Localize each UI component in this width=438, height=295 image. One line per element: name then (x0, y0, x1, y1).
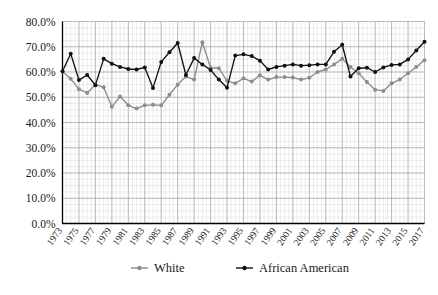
data-point (151, 86, 155, 90)
data-point (242, 76, 246, 80)
data-point (274, 65, 278, 69)
x-tick-label: 2005 (307, 225, 327, 247)
data-point (365, 66, 369, 70)
data-point (365, 80, 369, 84)
y-tick-label: 10.0% (26, 192, 56, 204)
grid-major-lines (63, 22, 425, 224)
data-point (283, 75, 287, 79)
data-point (118, 94, 122, 98)
x-axis-tick-labels: 1973197519771979198119831985198719891991… (44, 225, 426, 247)
data-point (242, 52, 246, 56)
x-tick-label: 1995 (225, 225, 245, 247)
data-point (406, 71, 410, 75)
data-point (390, 63, 394, 67)
data-point (126, 67, 130, 71)
data-point (102, 85, 106, 89)
x-tick-label: 1999 (258, 225, 278, 247)
x-tick-label: 1991 (192, 225, 212, 247)
data-point (340, 43, 344, 47)
data-point (77, 87, 81, 91)
line-chart: 0.0%10.0%20.0%30.0%40.0%50.0%60.0%70.0%8… (0, 0, 438, 295)
x-tick-label: 2003 (291, 225, 311, 247)
x-tick-label: 1983 (126, 225, 146, 247)
data-point (348, 65, 352, 69)
data-point (225, 86, 229, 90)
data-point (167, 93, 171, 97)
legend-label: African American (259, 261, 350, 275)
data-point (143, 65, 147, 69)
data-point (398, 78, 402, 82)
data-point (324, 67, 328, 71)
data-point (423, 40, 427, 44)
x-tick-label: 1979 (93, 225, 113, 247)
data-point (85, 91, 89, 95)
data-point (406, 57, 410, 61)
x-tick-label: 2013 (373, 225, 393, 247)
data-point (200, 40, 204, 44)
data-point (390, 81, 394, 85)
data-point (381, 89, 385, 93)
chart-container: 0.0%10.0%20.0%30.0%40.0%50.0%60.0%70.0%8… (0, 0, 438, 295)
data-point (143, 103, 147, 107)
data-point (167, 50, 171, 54)
y-tick-label: 50.0% (26, 91, 56, 103)
x-tick-label: 1975 (61, 225, 81, 247)
y-tick-label: 80.0% (26, 16, 56, 28)
data-point (159, 60, 163, 64)
data-point (110, 105, 114, 109)
y-tick-label: 30.0% (26, 142, 56, 154)
chart-legend: WhiteAfrican American (131, 261, 350, 275)
data-point (200, 62, 204, 66)
data-point (307, 76, 311, 80)
data-point (61, 69, 65, 73)
data-point (414, 65, 418, 69)
data-point (250, 80, 254, 84)
data-point (135, 107, 139, 111)
data-point (299, 78, 303, 82)
data-point (217, 66, 221, 70)
data-point (151, 103, 155, 107)
data-point (184, 73, 188, 77)
data-point (373, 70, 377, 74)
data-point (258, 73, 262, 77)
data-point (414, 49, 418, 53)
data-point (398, 62, 402, 66)
data-point (283, 64, 287, 68)
data-point (77, 78, 81, 82)
data-point (110, 62, 114, 66)
x-tick-label: 2015 (390, 225, 410, 247)
data-point (266, 78, 270, 82)
legend-label: White (154, 261, 185, 275)
data-point (176, 83, 180, 87)
data-point (316, 62, 320, 66)
data-point (348, 75, 352, 79)
data-point (192, 56, 196, 60)
data-point (274, 75, 278, 79)
x-tick-label: 1977 (77, 225, 97, 247)
data-point (332, 62, 336, 66)
data-point (233, 54, 237, 58)
y-axis-tick-labels: 0.0%10.0%20.0%30.0%40.0%50.0%60.0%70.0%8… (26, 16, 56, 230)
x-tick-label: 1993 (209, 225, 229, 247)
data-point (250, 54, 254, 58)
x-tick-label: 1985 (143, 225, 163, 247)
data-point (209, 68, 213, 72)
data-point (69, 77, 73, 81)
data-point (192, 78, 196, 82)
data-point (176, 41, 180, 45)
data-point (93, 83, 97, 87)
data-point (340, 57, 344, 61)
legend-swatch-marker (242, 266, 246, 270)
x-tick-label: 2009 (340, 225, 360, 247)
data-point (307, 63, 311, 67)
x-tick-label: 2017 (406, 225, 426, 247)
data-point (258, 59, 262, 63)
data-point (135, 67, 139, 71)
data-point (332, 50, 336, 54)
x-tick-label: 1987 (159, 225, 179, 247)
x-tick-label: 2011 (357, 225, 377, 247)
data-point (217, 78, 221, 82)
data-point (233, 81, 237, 85)
x-tick-label: 2001 (274, 225, 294, 247)
legend-swatch-marker (137, 266, 141, 270)
